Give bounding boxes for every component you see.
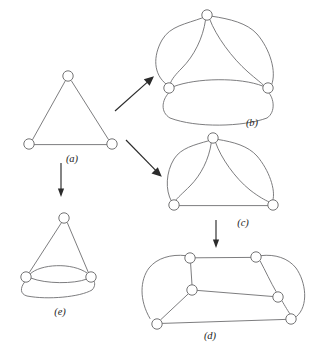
node-d-middle-right	[273, 292, 283, 302]
edge-d2-d4-inner	[260, 261, 276, 291]
panel-a-nodes	[24, 71, 117, 149]
arrow-a-to-e	[58, 163, 64, 197]
arrow-a-to-c-head	[152, 167, 162, 176]
edge-d2-d6-outer	[261, 255, 304, 316]
panel-d-edges	[142, 255, 305, 323]
node-a-apex	[63, 71, 73, 81]
node-b-bottom-right	[263, 83, 273, 93]
edge-d1-d5-outer	[142, 255, 186, 318]
node-e-bottom-left	[21, 272, 31, 282]
node-d-bottom-left	[152, 319, 162, 329]
panel-a: (a)	[24, 71, 117, 165]
edge-c1-c3-outer	[218, 139, 274, 200]
panel-b-edges	[156, 16, 274, 125]
edge-d4-d6-inner	[282, 301, 290, 315]
arrow-a-to-c-shaft	[126, 140, 159, 173]
node-c-bottom-right	[268, 200, 278, 210]
panel-label-b: (b)	[246, 117, 259, 129]
panel-c: (c)	[167, 133, 278, 229]
panel-label-e: (e)	[54, 306, 66, 318]
panel-d: (d)	[142, 252, 305, 342]
panel-b: (b)	[156, 10, 274, 129]
panel-e: (e)	[21, 213, 96, 318]
edge-e2-e3-lower	[21, 279, 94, 297]
edge-c1-c2-outer	[167, 141, 208, 202]
node-b-apex	[202, 10, 212, 20]
edge-d1-d3	[191, 263, 192, 285]
node-e-apex	[59, 213, 69, 223]
node-e-bottom-right	[86, 272, 96, 282]
node-c-bottom-left	[169, 200, 179, 210]
edge-d3-d4	[197, 290, 273, 296]
edge-d3-d5	[161, 294, 189, 320]
node-a-bottom-left	[24, 139, 34, 149]
node-b-bottom-left	[164, 83, 174, 93]
graph-transformation-figure: (a) (b)	[0, 0, 328, 350]
panel-c-edges	[167, 139, 273, 205]
edge-c1-c3-inner	[216, 143, 269, 202]
panel-e-edges	[21, 223, 94, 298]
edge-d5-d6	[162, 319, 286, 323]
panel-b-nodes	[164, 10, 273, 93]
edge-e1-e3	[67, 223, 88, 273]
edge-a1-a2	[33, 81, 66, 140]
panel-label-a: (a)	[66, 153, 79, 165]
edge-e2-e3-upper	[30, 266, 87, 274]
arrow-c-to-d	[213, 220, 219, 248]
panel-a-edges	[33, 81, 109, 145]
panel-label-c: (c)	[237, 217, 249, 229]
panel-d-nodes	[152, 252, 296, 329]
edge-b1-b3-inner	[210, 20, 264, 86]
edge-e1-e2	[29, 223, 61, 273]
arrow-a-to-c	[126, 140, 162, 177]
edge-a1-a3	[72, 81, 109, 139]
node-d-bottom-right	[286, 314, 296, 324]
node-c-apex	[208, 133, 218, 143]
figure-root: (a) (b)	[0, 0, 328, 350]
node-d-middle-left	[187, 285, 197, 295]
edge-b1-b3-outer	[212, 16, 274, 85]
edge-b2-b3-upper	[174, 80, 263, 87]
node-d-top-right	[251, 252, 261, 262]
arrow-c-to-d-head	[213, 240, 219, 249]
arrow-a-to-b-shaft	[115, 79, 151, 111]
arrow-a-to-e-head	[58, 189, 64, 198]
panel-label-d: (d)	[204, 330, 217, 342]
edge-b1-b2-outer	[156, 18, 203, 85]
edge-b1-b2-inner	[171, 20, 206, 83]
arrow-a-to-b	[115, 76, 154, 111]
node-a-bottom-right	[107, 139, 117, 149]
node-d-top-left	[185, 253, 195, 263]
edge-e2-e3-middle	[31, 278, 86, 282]
